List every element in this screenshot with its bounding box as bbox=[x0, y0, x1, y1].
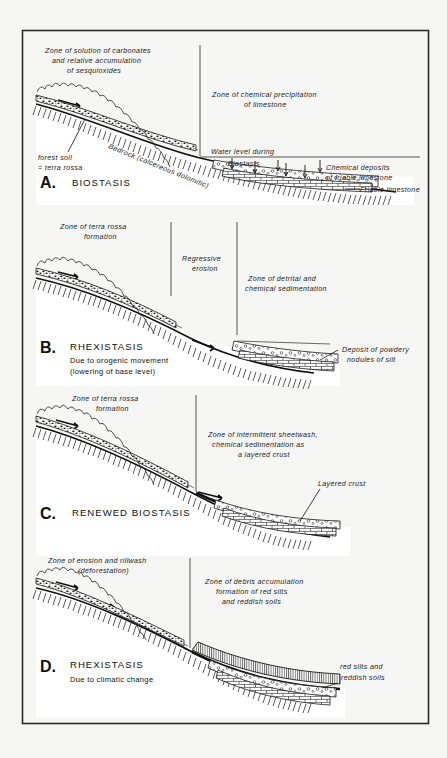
panel-a-left-zone-line1: Zone of solution of carbonates bbox=[44, 47, 151, 55]
panel-d-letter: D. bbox=[40, 658, 56, 675]
panel-b-mid-zone-line1: Regressive bbox=[182, 255, 221, 263]
panel-d-subtitle-line1: Due to climatic change bbox=[70, 675, 153, 684]
panel-a-right-zone-line2: of limestone bbox=[244, 101, 286, 109]
panel-a-left-zone-line2: and relative accumulation bbox=[52, 57, 141, 65]
panel-b-left-zone-line1: Zone of terra rossa bbox=[59, 223, 127, 231]
panel-b-deposit-line1: Deposit of powdery bbox=[342, 346, 409, 354]
panel-a-water-level-line2: Biostasis bbox=[228, 160, 260, 168]
panel-a-chemical-deposits-line2: of friable limestone bbox=[326, 174, 393, 182]
panel-a-friable-limestone: Friable limestone bbox=[360, 186, 420, 194]
geomorphology-figure: Zone of solution of carbonates and relat… bbox=[0, 0, 447, 758]
panel-c-title: RENEWED BIOSTASIS bbox=[72, 507, 191, 518]
panel-a-water-level-line1: Water level during bbox=[211, 148, 274, 156]
panel-d-title: RHEXISTASIS bbox=[70, 659, 144, 670]
panel-a-forest-soil-line2: = terra rossa bbox=[38, 164, 83, 172]
panel-a-left-zone-line3: of sesquioxides bbox=[67, 67, 121, 75]
panel-b-right-zone-line1: Zone of detrital and bbox=[247, 275, 317, 283]
panel-d-left-zone-line1: Zone of erosion and rillwash bbox=[47, 557, 147, 565]
panel-c-right-zone-line1: Zone of intermittent sheetwash, bbox=[207, 431, 318, 439]
panel-a-right-zone-line1: Zone of chemical precipitation bbox=[211, 91, 317, 99]
panel-a-chemical-deposits-line1: Chemical deposits bbox=[326, 164, 390, 172]
panel-c-crust-label: Layered crust bbox=[318, 480, 366, 488]
panel-c-letter: C. bbox=[40, 505, 56, 522]
panel-d-silts-line2: reddish soils bbox=[341, 674, 385, 682]
panel-b-deposit-line2: nodules of silt bbox=[347, 356, 396, 364]
panel-b-left-zone-line2: formation bbox=[84, 233, 117, 241]
panel-c-left-zone-line2: formation bbox=[96, 405, 129, 413]
panel-b-subtitle-line2: (lowering of base level) bbox=[70, 367, 155, 376]
panel-d-right-zone-line2: formation of red silts bbox=[216, 588, 288, 596]
panel-b-mid-zone-line2: erosion bbox=[192, 265, 218, 273]
panel-b-right-zone-line2: chemical sedimentation bbox=[245, 285, 327, 293]
panel-c-right-zone-line2: chemical sedimentation as bbox=[212, 441, 304, 449]
panel-a-title: BIOSTASIS bbox=[72, 177, 131, 188]
panel-d-left-zone-line2: (deforestation) bbox=[78, 567, 129, 575]
panel-c-right-zone-line3: a layered crust bbox=[238, 451, 290, 459]
panel-b-letter: B. bbox=[40, 339, 56, 356]
panel-d-silts-line1: red silts and bbox=[340, 663, 384, 671]
panel-b-subtitle-line1: Due to orogenic movement bbox=[70, 356, 169, 365]
panel-b-title: RHEXISTASIS bbox=[70, 341, 144, 352]
panel-a-letter: A. bbox=[40, 174, 56, 191]
panel-d-right-zone-line3: and reddish soils bbox=[222, 598, 281, 606]
panel-a-forest-soil-line1: forest soil bbox=[38, 154, 72, 162]
panel-d-right-zone-line1: Zone of debris accumulation bbox=[204, 578, 304, 586]
panel-c-left-zone-line1: Zone of terra rossa bbox=[71, 395, 139, 403]
